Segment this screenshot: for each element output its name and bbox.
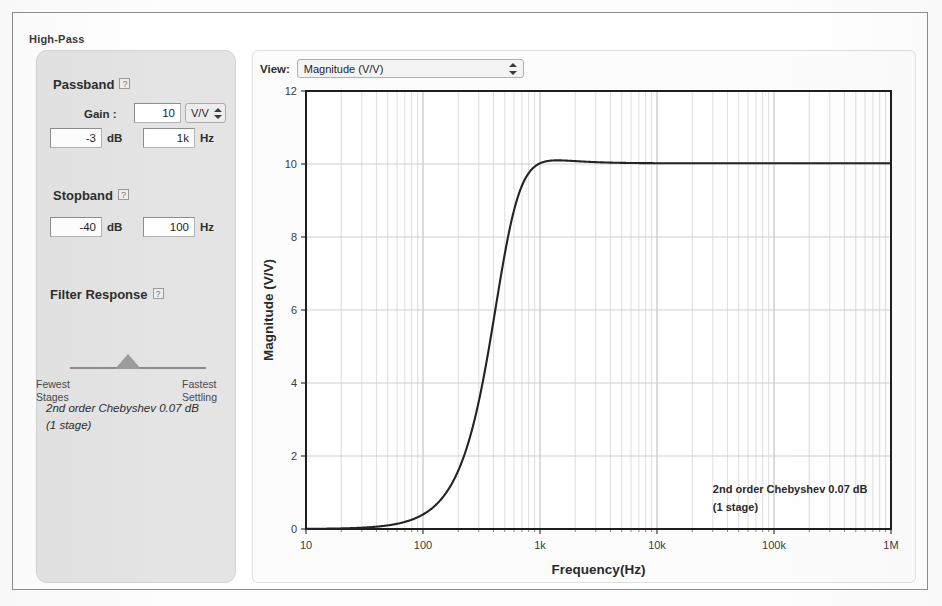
svg-text:2: 2 xyxy=(291,450,297,462)
chart-panel: View: Magnitude (V/V) 024681012101001k10… xyxy=(252,50,916,583)
gain-input[interactable]: 10 xyxy=(134,103,181,123)
filter-type-label: High-Pass xyxy=(29,33,85,45)
svg-text:6: 6 xyxy=(291,304,297,316)
passband-title: Passband xyxy=(53,77,114,92)
stopband-atten-unit: dB xyxy=(107,221,122,233)
gain-unit-value: V/V xyxy=(191,107,209,119)
svg-text:1M: 1M xyxy=(883,539,898,551)
filter-response-heading: Filter Response? xyxy=(50,287,164,302)
svg-text:Magnitude (V/V): Magnitude (V/V) xyxy=(261,259,276,361)
svg-text:10k: 10k xyxy=(648,539,666,551)
stopband-freq-input[interactable]: 100 xyxy=(143,217,195,237)
stopband-freq-unit: Hz xyxy=(200,221,214,233)
filter-result-summary: 2nd order Chebyshev 0.07 dB (1 stage) xyxy=(46,400,206,434)
stepper-arrows-icon xyxy=(213,106,222,121)
stopband-atten-input[interactable]: -40 xyxy=(50,217,102,237)
filter-response-title: Filter Response xyxy=(50,287,148,302)
control-panel: Passband? Gain : 10 V/V -3 dB 1k Hz Stop… xyxy=(36,50,236,583)
gain-unit-select[interactable]: V/V xyxy=(185,103,226,123)
passband-help-icon[interactable]: ? xyxy=(119,78,130,89)
svg-text:4: 4 xyxy=(291,377,297,389)
filter-result-line2: (1 stage) xyxy=(46,417,206,434)
filter-result-line1: 2nd order Chebyshev 0.07 dB xyxy=(46,400,206,417)
filter-designer-app: High-Pass Passband? Gain : 10 V/V -3 dB … xyxy=(0,0,942,606)
passband-ripple-input[interactable]: -3 xyxy=(50,128,102,148)
gain-label: Gain : xyxy=(84,108,117,120)
svg-text:8: 8 xyxy=(291,231,297,243)
svg-text:100: 100 xyxy=(414,539,432,551)
magnitude-plot: 024681012101001k10k100k1M2nd order Cheby… xyxy=(253,51,917,584)
filter-response-slider-thumb[interactable] xyxy=(115,354,141,369)
svg-text:Frequency(Hz): Frequency(Hz) xyxy=(552,562,646,577)
svg-text:1k: 1k xyxy=(534,539,546,551)
slider-left-label-line1: Fewest xyxy=(36,378,70,391)
stopband-title: Stopband xyxy=(53,188,113,203)
svg-text:0: 0 xyxy=(291,523,297,535)
slider-right-label-line1: Fastest xyxy=(182,378,217,391)
filter-response-help-icon[interactable]: ? xyxy=(153,288,164,299)
passband-freq-input[interactable]: 1k xyxy=(143,128,195,148)
svg-text:2nd order Chebyshev 0.07 dB: 2nd order Chebyshev 0.07 dB xyxy=(713,483,868,495)
magnitude-plot-svg: 024681012101001k10k100k1M2nd order Cheby… xyxy=(253,51,917,584)
svg-text:100k: 100k xyxy=(762,539,786,551)
svg-text:10: 10 xyxy=(300,539,312,551)
passband-freq-unit: Hz xyxy=(200,132,214,144)
svg-text:10: 10 xyxy=(285,158,297,170)
svg-text:12: 12 xyxy=(285,85,297,97)
passband-ripple-unit: dB xyxy=(107,132,122,144)
stopband-help-icon[interactable]: ? xyxy=(118,189,129,200)
svg-text:(1 stage): (1 stage) xyxy=(713,501,759,513)
stopband-heading: Stopband? xyxy=(53,188,129,203)
passband-heading: Passband? xyxy=(53,77,130,92)
